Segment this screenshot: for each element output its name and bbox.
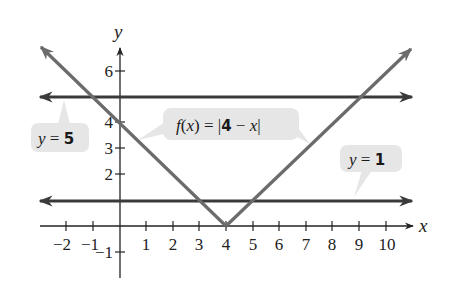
- svg-text:8: 8: [328, 235, 337, 254]
- svg-text:5: 5: [249, 235, 258, 254]
- svg-text:1: 1: [142, 235, 151, 254]
- svg-text:7: 7: [302, 235, 311, 254]
- svg-text:3: 3: [105, 139, 114, 158]
- svg-text:2: 2: [105, 165, 114, 184]
- absolute-value-graph: −2 −1 1 2 3 4 5 6 7 8 9 10 6 4 3 2 −1 y …: [0, 0, 456, 292]
- svg-text:6: 6: [105, 62, 114, 81]
- callout-y1-text: y = 1: [347, 150, 385, 169]
- y-tick-labels: 6 4 3 2 −1: [95, 62, 114, 262]
- svg-text:4: 4: [222, 235, 231, 254]
- svg-text:2: 2: [169, 235, 178, 254]
- svg-text:−1: −1: [95, 243, 113, 262]
- y-axis-label: y: [112, 21, 123, 42]
- x-axis-label: x: [418, 215, 428, 236]
- svg-text:9: 9: [355, 235, 364, 254]
- svg-text:6: 6: [275, 235, 284, 254]
- svg-text:−2: −2: [53, 235, 71, 254]
- callout-fx-text: f(x) = |4 − x|: [176, 116, 261, 135]
- callout-y5-text: y = 5: [36, 129, 74, 148]
- svg-text:10: 10: [379, 235, 396, 254]
- svg-text:3: 3: [195, 235, 204, 254]
